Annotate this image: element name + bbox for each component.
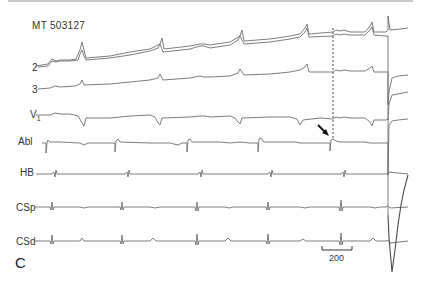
- scale-bar: [322, 246, 352, 250]
- trace-lead-3: [38, 64, 408, 120]
- trace-lead-1: [36, 16, 408, 66]
- trace-lead-v1: [36, 113, 408, 175]
- trace-artifact-spike: [388, 175, 408, 272]
- trace-csp: [34, 200, 408, 211]
- trace-csd: [34, 233, 408, 245]
- arrow-icon: [318, 125, 329, 136]
- trace-abl: [42, 138, 388, 215]
- tracing-canvas: [0, 0, 423, 287]
- trace-hb: [36, 170, 408, 177]
- trace-lead-2: [38, 27, 408, 105]
